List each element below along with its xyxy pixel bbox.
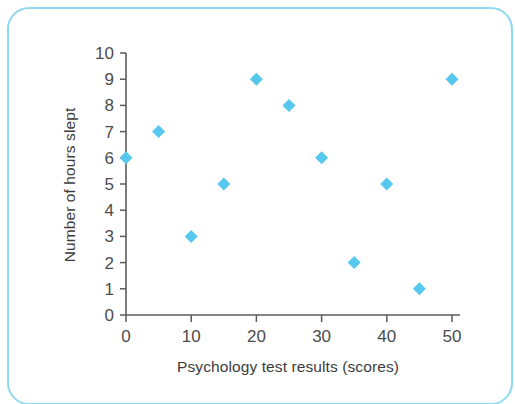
data-points bbox=[120, 73, 459, 296]
y-tick-label: 9 bbox=[105, 70, 114, 89]
x-tick-label: 40 bbox=[377, 327, 396, 346]
data-point-marker bbox=[120, 151, 133, 164]
y-tick-label: 1 bbox=[105, 280, 114, 299]
y-axis-ticks: 012345678910 bbox=[95, 44, 126, 325]
y-axis-title: Number of hours slept bbox=[61, 107, 78, 262]
data-point-marker bbox=[152, 125, 165, 138]
scatter-plot: 012345678910 01020304050 Psychology test… bbox=[0, 0, 515, 404]
data-point-marker bbox=[283, 99, 296, 112]
x-tick-label: 20 bbox=[247, 327, 266, 346]
data-point-marker bbox=[413, 282, 426, 295]
y-tick-label: 5 bbox=[105, 175, 114, 194]
y-tick-label: 4 bbox=[105, 201, 114, 220]
x-axis-title: Psychology test results (scores) bbox=[177, 358, 399, 375]
y-tick-label: 2 bbox=[105, 254, 114, 273]
y-tick-label: 8 bbox=[105, 96, 114, 115]
chart-figure: 012345678910 01020304050 Psychology test… bbox=[0, 0, 515, 404]
plot-axes bbox=[126, 53, 460, 315]
data-point-marker bbox=[380, 178, 393, 191]
data-point-marker bbox=[446, 73, 459, 86]
data-point-marker bbox=[217, 178, 230, 191]
data-point-marker bbox=[250, 73, 263, 86]
data-point-marker bbox=[348, 256, 361, 269]
y-tick-label: 7 bbox=[105, 123, 114, 142]
x-tick-label: 10 bbox=[182, 327, 201, 346]
x-tick-label: 0 bbox=[121, 327, 130, 346]
data-point-marker bbox=[315, 151, 328, 164]
y-tick-label: 10 bbox=[95, 44, 114, 63]
x-tick-label: 30 bbox=[312, 327, 331, 346]
x-axis-ticks: 01020304050 bbox=[121, 315, 461, 346]
y-tick-label: 0 bbox=[105, 306, 114, 325]
y-tick-label: 3 bbox=[105, 227, 114, 246]
y-tick-label: 6 bbox=[105, 149, 114, 168]
x-tick-label: 50 bbox=[443, 327, 462, 346]
data-point-marker bbox=[185, 230, 198, 243]
